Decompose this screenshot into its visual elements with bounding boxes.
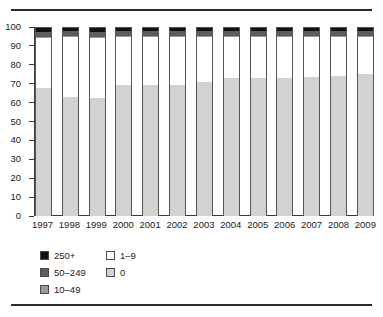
bar-2003[interactable]	[196, 27, 213, 216]
bar-segment-1-9-1998	[63, 37, 78, 96]
bar-segment-1-9-1999	[90, 38, 105, 97]
y-tick-mark	[29, 27, 34, 28]
bar-2005[interactable]	[250, 27, 267, 216]
y-tick-label: 20	[0, 173, 21, 183]
x-label-2000: 2000	[110, 219, 137, 233]
y-tick-mark	[29, 45, 34, 46]
x-label-2006: 2006	[271, 219, 298, 233]
x-label-2003: 2003	[190, 219, 217, 233]
bar-segment-1-9-2007	[304, 37, 319, 76]
legend-label: 0	[120, 268, 125, 278]
bar-segment-1-9-2005	[251, 37, 266, 77]
y-tick-mark	[29, 178, 34, 179]
legend-label: 10–49	[54, 285, 80, 295]
x-label-1999: 1999	[83, 219, 110, 233]
legend-item-50249[interactable]: 50–249	[40, 265, 86, 280]
legend-label: 250+	[54, 251, 75, 261]
legend-item-19[interactable]: 1–9	[106, 248, 136, 263]
bar-segment-1-9-2000	[116, 37, 131, 85]
bar-segment-0-2005	[251, 78, 266, 216]
figure: 0102030405060708090100 19971998199920002…	[0, 0, 383, 317]
x-label-2004: 2004	[217, 219, 244, 233]
bar-1997[interactable]	[35, 27, 52, 216]
y-tick-label: 30	[0, 154, 21, 164]
bar-segment-0-1998	[63, 97, 78, 216]
bar-segment-1-9-2003	[197, 37, 212, 81]
bar-2007[interactable]	[303, 27, 320, 216]
figure-bottom-rule	[11, 304, 372, 306]
y-tick-label: 0	[0, 211, 21, 221]
y-tick-label: 80	[0, 60, 21, 70]
bar-2002[interactable]	[169, 27, 186, 216]
legend-swatch-icon	[40, 268, 49, 277]
x-axis-labels: 1997199819992000200120022003200420052006…	[34, 219, 374, 233]
legend-swatch-icon	[106, 268, 115, 277]
figure-top-rule	[11, 9, 372, 11]
y-tick-mark	[29, 64, 34, 65]
bar-segment-0-2000	[116, 85, 131, 216]
bar-segment-1-9-2004	[224, 37, 239, 77]
legend-item-250+[interactable]: 250+	[40, 248, 86, 263]
bar-segment-1-9-2001	[143, 37, 158, 85]
legend-swatch-icon	[40, 251, 49, 260]
bar-segment-0-2008	[331, 76, 346, 216]
y-tick-label: 10	[0, 192, 21, 202]
y-tick-mark	[29, 102, 34, 103]
bar-2009[interactable]	[357, 27, 374, 216]
bar-segment-0-1999	[90, 98, 105, 216]
bar-1998[interactable]	[62, 27, 79, 216]
x-label-2007: 2007	[298, 219, 325, 233]
x-label-2001: 2001	[137, 219, 164, 233]
y-tick-mark	[29, 216, 34, 217]
y-tick-label: 60	[0, 98, 21, 108]
legend-item-1049[interactable]: 10–49	[40, 282, 86, 297]
x-label-2002: 2002	[164, 219, 191, 233]
y-tick-mark	[29, 83, 34, 84]
bar-segment-1-9-2002	[170, 37, 185, 85]
bar-segment-1-9-1997	[36, 38, 51, 88]
bar-segment-1-9-2009	[358, 37, 373, 74]
bar-segment-0-1997	[36, 88, 51, 216]
bar-series-group	[35, 27, 374, 216]
x-label-2008: 2008	[325, 219, 352, 233]
bar-2001[interactable]	[142, 27, 159, 216]
bar-segment-0-2001	[143, 85, 158, 216]
y-tick-label: 70	[0, 79, 21, 89]
bar-segment-1-9-2008	[331, 37, 346, 76]
y-tick-label: 50	[0, 117, 21, 127]
bar-2006[interactable]	[276, 27, 293, 216]
y-tick-mark	[29, 197, 34, 198]
legend-swatch-icon	[106, 251, 115, 260]
bar-segment-0-2006	[277, 78, 292, 216]
y-tick-label: 90	[0, 41, 21, 51]
bar-2000[interactable]	[115, 27, 132, 216]
legend-label: 1–9	[120, 251, 136, 261]
legend-label: 50–249	[54, 268, 86, 278]
bar-segment-0-2007	[304, 77, 319, 216]
plot-area: 0102030405060708090100	[34, 27, 374, 216]
x-label-2009: 2009	[352, 219, 379, 233]
bar-segment-1-9-2006	[277, 37, 292, 77]
x-label-1997: 1997	[29, 219, 56, 233]
bar-segment-0-2009	[358, 74, 373, 216]
bar-segment-0-2002	[170, 85, 185, 216]
x-label-1998: 1998	[56, 219, 83, 233]
legend-column-right: 1–90	[106, 248, 136, 282]
y-tick-mark	[29, 159, 34, 160]
bar-segment-0-2003	[197, 82, 212, 216]
bar-1999[interactable]	[89, 27, 106, 216]
x-label-2005: 2005	[244, 219, 271, 233]
y-tick-mark	[29, 121, 34, 122]
y-tick-label: 40	[0, 135, 21, 145]
y-tick-mark	[29, 140, 34, 141]
legend-item-0[interactable]: 0	[106, 265, 136, 280]
legend-column-left: 250+50–24910–49	[40, 248, 86, 299]
bar-2008[interactable]	[330, 27, 347, 216]
legend-swatch-icon	[40, 285, 49, 294]
bar-2004[interactable]	[223, 27, 240, 216]
bar-segment-0-2004	[224, 78, 239, 216]
y-tick-label: 100	[0, 22, 21, 32]
